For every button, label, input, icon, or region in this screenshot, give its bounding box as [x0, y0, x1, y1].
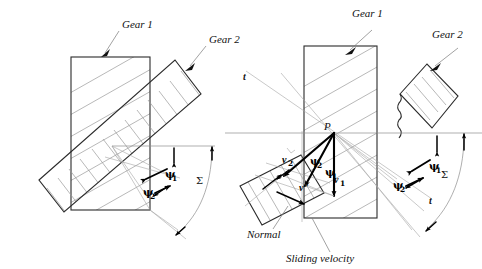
left-gear2-label: Gear 2	[209, 33, 240, 45]
sliding-velocity-leader	[312, 218, 330, 252]
right-gear1-leader	[350, 30, 372, 50]
t-upper-left-label: t	[243, 71, 247, 82]
left-gear2-leader	[190, 46, 206, 66]
point-p-label: P	[323, 120, 331, 132]
left-gear1-label: Gear 1	[122, 18, 153, 30]
normal-label: Normal	[246, 228, 281, 240]
left-gear2-leader-arrow	[185, 63, 195, 71]
right-gear1-leader-arrow	[345, 47, 356, 55]
left-gear1-leader	[105, 31, 119, 53]
left-sigma-angle	[176, 147, 212, 235]
right-gear2-break-line	[398, 94, 402, 138]
left-diagram-group: Gear 1 Gear 2 ψ 1 ψ 2 Σ	[39, 18, 240, 269]
right-gear1-hatching	[280, 32, 400, 269]
figure-canvas: Gear 1 Gear 2 ψ 1 ψ 2 Σ	[0, 0, 482, 269]
diagram-svg: Gear 1 Gear 2 ψ 1 ψ 2 Σ	[0, 0, 482, 269]
sliding-velocity-label: Sliding velocity	[286, 252, 354, 264]
right-diagram-group: Gear 1 Gear 2 P v 2 v 1 v″ ψ 2 ψ 1 ψ 1 ψ…	[225, 7, 482, 269]
vector-v2-label: v	[282, 154, 287, 165]
left-psi2-sub: 2	[150, 192, 155, 201]
left-psi1-sub: 1	[172, 174, 177, 183]
right-psi1-sub: 1	[332, 172, 337, 181]
right-gear2-upper	[398, 63, 462, 138]
right-gear1-body	[280, 32, 400, 269]
vector-v-double-prime-label: v″	[299, 182, 309, 193]
right-gear2-leader-arrow	[430, 63, 441, 71]
vector-v2-sub: 2	[288, 159, 293, 168]
left-gear1-hatching	[40, 25, 190, 269]
t-lower-right-label: t	[429, 195, 433, 206]
right-psi2-sub: 2	[317, 161, 322, 170]
right-psi2-angle-sub: 2	[400, 185, 405, 194]
right-gear2-label: Gear 2	[432, 28, 463, 40]
left-psi2-angle	[154, 186, 170, 196]
left-gear1-body	[40, 25, 190, 269]
right-gear2-leader	[435, 48, 458, 66]
left-sigma-label: Σ	[196, 175, 203, 186]
vector-v1-sub: 1	[340, 179, 345, 188]
left-gear2-body	[39, 60, 207, 222]
right-sigma-label: Σ	[441, 169, 448, 180]
normal-leader	[273, 206, 288, 229]
left-gear1-leader-arrow	[101, 49, 110, 57]
right-gear1-label: Gear 1	[352, 7, 383, 19]
right-sigma-angle	[426, 134, 464, 231]
v2-bracket	[287, 148, 295, 153]
